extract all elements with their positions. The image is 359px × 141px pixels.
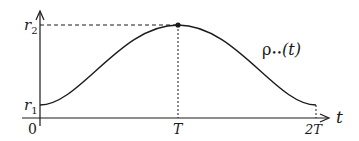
2t-tick-label: 2T <box>304 122 323 137</box>
t-tick-label: T <box>173 121 184 137</box>
curve-label: ρ••(t) <box>262 40 301 59</box>
peak-marker <box>175 22 180 27</box>
r1-label: r1 <box>24 96 38 116</box>
t-axis-label: t <box>336 107 343 127</box>
origin-label: 0 <box>28 121 37 137</box>
rho-curve-diagram: r2 r1 0 T 2T t ρ••(t) <box>0 0 359 141</box>
r2-label: r2 <box>24 16 38 36</box>
